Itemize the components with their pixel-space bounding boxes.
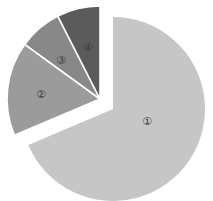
slice-label-1: ① [142,115,152,128]
slice-label-4: ④ [83,41,93,54]
slice-label-2: ② [36,88,46,101]
pie-chart: ① ② ③ ④ [0,0,213,201]
slice-label-3: ③ [56,54,66,67]
